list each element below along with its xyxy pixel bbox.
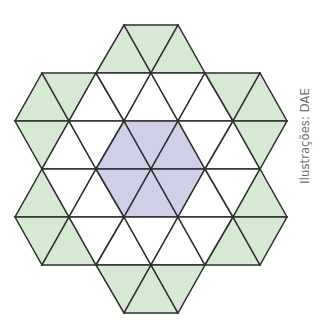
triangle-grid [15, 25, 287, 313]
illustration-credit-label: Ilustrações: DAE [298, 88, 312, 184]
star-triangle-figure [0, 0, 323, 320]
